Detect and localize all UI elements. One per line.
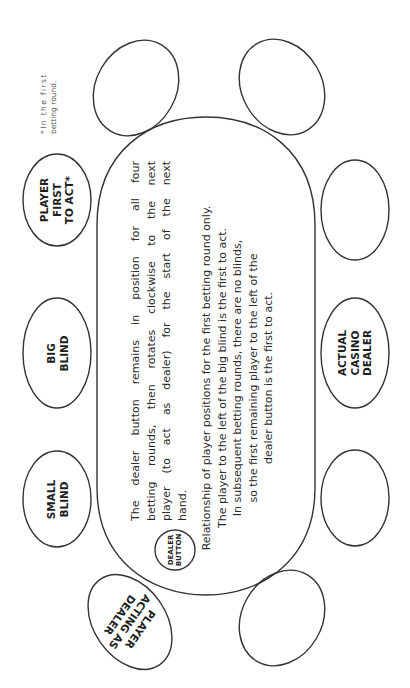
seat-empty-right-lower[interactable] <box>321 450 389 546</box>
text-line: so the first remaining player to the lef… <box>246 178 262 578</box>
label-line: BLIND <box>57 324 70 384</box>
label-line: PLAYER <box>38 160 51 240</box>
seat-empty-top-right[interactable] <box>222 24 341 151</box>
label-line: BLIND <box>57 470 70 530</box>
label-line: FIRST <box>51 160 64 240</box>
label-line: SMALL <box>45 470 58 530</box>
seat-empty-top-left[interactable] <box>76 25 195 152</box>
label-line: DEALER <box>361 313 374 393</box>
seat-empty-right-upper[interactable] <box>321 160 389 260</box>
text-line: Relationship of player positions for the… <box>199 178 215 578</box>
label-line: CASINO <box>349 313 362 393</box>
label-line: ACTUAL <box>336 313 349 393</box>
text-line: dealer button is the first to act. <box>261 178 277 578</box>
text-line: player (to act as dealer) for the start … <box>159 161 175 521</box>
label-line: BUTTON <box>175 530 183 570</box>
dealer-button-explanation: The dealer button remains in position fo… <box>128 161 190 521</box>
label-line: DEALER <box>167 530 175 570</box>
text-line: In subsequent betting rounds, there are … <box>230 178 246 578</box>
label-big-blind: BIG BLIND <box>45 324 70 384</box>
footnote: *In the first betting round. <box>39 66 59 134</box>
footnote-line: *In the first <box>39 66 49 134</box>
text-line: The dealer button remains in position fo… <box>128 161 144 521</box>
text-line: betting rounds, then rotates clockwise t… <box>144 161 160 521</box>
text-line: The player to the left of the big blind … <box>215 178 231 578</box>
position-relationship-explanation: Relationship of player positions for the… <box>199 178 277 578</box>
text-line: hand. <box>175 161 191 521</box>
label-actual-casino-dealer: ACTUAL CASINO DEALER <box>336 313 374 393</box>
label-line: TO ACT* <box>63 160 76 240</box>
label-player-first-to-act: PLAYER FIRST TO ACT* <box>38 160 76 240</box>
label-small-blind: SMALL BLIND <box>45 470 70 530</box>
label-line: BIG <box>45 324 58 384</box>
label-dealer-button: DEALER BUTTON <box>167 530 183 570</box>
footnote-line: betting round. <box>49 66 59 134</box>
